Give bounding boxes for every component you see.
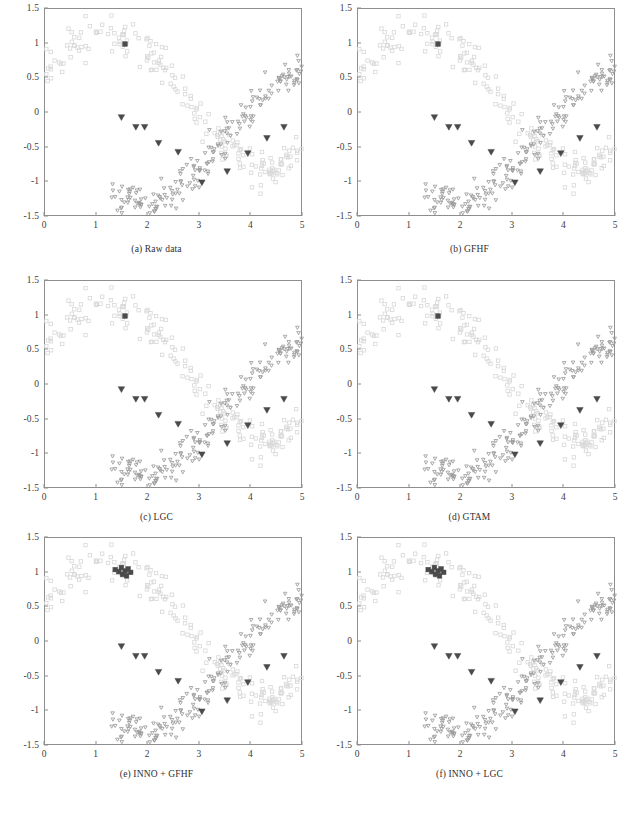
xtick-label-f-3: 3 xyxy=(509,749,514,759)
xtick-label-f-5: 5 xyxy=(613,749,618,759)
ytick-label-b-5: -1 xyxy=(344,176,352,186)
plot-area-f: 1.510.50-0.5-1-1.5012345 xyxy=(357,537,615,745)
ytick-mark-e-1 xyxy=(44,571,48,572)
ytick-label-a-4: -0.5 xyxy=(24,142,39,152)
ytick-label-d-3: 0 xyxy=(347,379,352,389)
ytick-mark-d-5 xyxy=(357,453,361,454)
ytick-label-e-6: -1.5 xyxy=(24,740,39,750)
ytick-mark-e-6 xyxy=(44,745,48,746)
ytick-label-f-1: 1 xyxy=(347,567,352,577)
xtick-mark-c-1 xyxy=(95,484,96,488)
xtick-label-b-0: 0 xyxy=(355,220,360,230)
ytick-mark-f-5 xyxy=(357,710,361,711)
ytick-label-f-5: -1 xyxy=(344,705,352,715)
plot-area-a: 1.510.50-0.5-1-1.5012345 xyxy=(44,8,302,216)
xtick-mark-e-3 xyxy=(198,741,199,745)
ytick-label-c-6: -1.5 xyxy=(24,483,39,493)
xtick-mark-f-2 xyxy=(460,741,461,745)
xtick-mark-a-4 xyxy=(250,212,251,216)
ytick-label-e-0: 1.5 xyxy=(27,532,39,542)
xtick-mark-c-4 xyxy=(250,484,251,488)
panel-e-body: 1.510.50-0.5-1-1.5012345(e) INNO + GFHF xyxy=(0,529,313,814)
xtick-mark-a-5 xyxy=(302,212,303,216)
xtick-label-e-5: 5 xyxy=(300,749,305,759)
xtick-mark-e-4 xyxy=(250,741,251,745)
ytick-label-b-4: -0.5 xyxy=(337,142,352,152)
ytick-mark-e-3 xyxy=(44,641,48,642)
ytick-label-c-3: 0 xyxy=(34,379,39,389)
xtick-mark-c-5 xyxy=(302,484,303,488)
ytick-mark-a-2 xyxy=(44,77,48,78)
panel-caption-b: (b) GFHF xyxy=(313,244,626,254)
ytick-mark-a-4 xyxy=(44,146,48,147)
scatter-points-c xyxy=(44,280,302,488)
ytick-mark-c-4 xyxy=(44,418,48,419)
panel-b-body: 1.510.50-0.5-1-1.5012345(b) GFHF xyxy=(313,0,626,272)
xtick-mark-b-5 xyxy=(615,212,616,216)
ytick-label-d-6: -1.5 xyxy=(337,483,352,493)
plot-area-d: 1.510.50-0.5-1-1.5012345 xyxy=(357,280,615,488)
ytick-label-d-0: 1.5 xyxy=(340,275,352,285)
panel-c: 1.510.50-0.5-1-1.5012345(c) LGC xyxy=(0,272,313,529)
ytick-label-e-2: 0.5 xyxy=(27,601,39,611)
xtick-mark-b-3 xyxy=(511,212,512,216)
ytick-mark-c-6 xyxy=(44,488,48,489)
ytick-mark-f-2 xyxy=(357,606,361,607)
ytick-mark-c-3 xyxy=(44,384,48,385)
xtick-mark-c-0 xyxy=(44,484,45,488)
figure-grid: 1.510.50-0.5-1-1.5012345(a) Raw data1.51… xyxy=(0,0,626,814)
ytick-mark-f-0 xyxy=(357,537,361,538)
xtick-label-e-0: 0 xyxy=(42,749,47,759)
xtick-mark-d-1 xyxy=(408,484,409,488)
xtick-label-b-2: 2 xyxy=(458,220,463,230)
xtick-mark-f-4 xyxy=(563,741,564,745)
scatter-points-f xyxy=(357,537,615,745)
ytick-label-a-5: -1 xyxy=(31,176,39,186)
xtick-label-e-2: 2 xyxy=(145,749,150,759)
ytick-label-e-5: -1 xyxy=(31,705,39,715)
ytick-label-a-3: 0 xyxy=(34,107,39,117)
ytick-mark-b-0 xyxy=(357,8,361,9)
xtick-label-b-3: 3 xyxy=(509,220,514,230)
panel-caption-d: (d) GTAM xyxy=(313,512,626,522)
ytick-mark-b-2 xyxy=(357,77,361,78)
ytick-mark-f-6 xyxy=(357,745,361,746)
ytick-mark-b-1 xyxy=(357,42,361,43)
panel-f-body: 1.510.50-0.5-1-1.5012345(f) INNO + LGC xyxy=(313,529,626,814)
ytick-label-e-1: 1 xyxy=(34,567,39,577)
xtick-label-d-1: 1 xyxy=(406,492,411,502)
panel-f: 1.510.50-0.5-1-1.5012345(f) INNO + LGC xyxy=(313,529,626,814)
ytick-mark-b-6 xyxy=(357,216,361,217)
ytick-mark-f-1 xyxy=(357,571,361,572)
xtick-mark-d-4 xyxy=(563,484,564,488)
xtick-mark-a-3 xyxy=(198,212,199,216)
ytick-label-d-2: 0.5 xyxy=(340,344,352,354)
ytick-label-b-1: 1 xyxy=(347,38,352,48)
ytick-label-d-1: 1 xyxy=(347,310,352,320)
ytick-mark-a-1 xyxy=(44,42,48,43)
ytick-mark-b-5 xyxy=(357,181,361,182)
xtick-label-a-3: 3 xyxy=(196,220,201,230)
panel-b: 1.510.50-0.5-1-1.5012345(b) GFHF xyxy=(313,0,626,272)
xtick-label-f-4: 4 xyxy=(561,749,566,759)
ytick-mark-d-3 xyxy=(357,384,361,385)
scatter-points-d xyxy=(357,280,615,488)
ytick-mark-d-0 xyxy=(357,280,361,281)
ytick-mark-d-2 xyxy=(357,349,361,350)
xtick-label-d-0: 0 xyxy=(355,492,360,502)
ytick-label-a-6: -1.5 xyxy=(24,211,39,221)
ytick-label-f-3: 0 xyxy=(347,636,352,646)
ytick-mark-f-4 xyxy=(357,675,361,676)
xtick-mark-e-5 xyxy=(302,741,303,745)
panel-d-body: 1.510.50-0.5-1-1.5012345(d) GTAM xyxy=(313,272,626,529)
xtick-mark-b-2 xyxy=(460,212,461,216)
ytick-label-b-0: 1.5 xyxy=(340,3,352,13)
ytick-label-c-4: -0.5 xyxy=(24,414,39,424)
plot-area-c: 1.510.50-0.5-1-1.5012345 xyxy=(44,280,302,488)
panel-a-body: 1.510.50-0.5-1-1.5012345(a) Raw data xyxy=(0,0,313,272)
ytick-mark-e-5 xyxy=(44,710,48,711)
ytick-mark-d-1 xyxy=(357,314,361,315)
ytick-label-b-2: 0.5 xyxy=(340,72,352,82)
ytick-mark-e-0 xyxy=(44,537,48,538)
ytick-mark-a-5 xyxy=(44,181,48,182)
